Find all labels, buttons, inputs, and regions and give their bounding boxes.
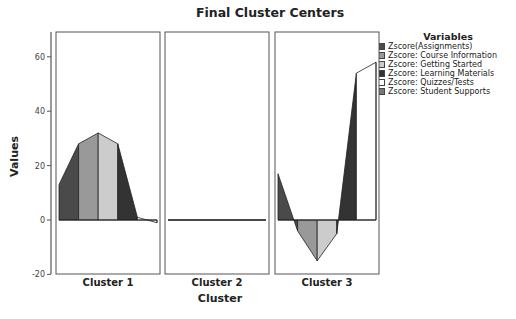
cluster-panel xyxy=(56,32,160,274)
cluster-label: Cluster 3 xyxy=(302,277,353,288)
chart-root: Final Cluster Centers Values Cluster Var… xyxy=(0,0,516,319)
svg-text:60: 60 xyxy=(35,53,45,62)
cluster-panel xyxy=(275,32,379,274)
svg-text:40: 40 xyxy=(35,107,45,116)
svg-text:-20: -20 xyxy=(32,270,45,279)
svg-text:20: 20 xyxy=(35,162,45,171)
cluster-label: Cluster 2 xyxy=(192,277,243,288)
cluster-panel xyxy=(165,32,269,274)
svg-text:0: 0 xyxy=(40,216,45,225)
plot-area: -200204060Cluster 1Cluster 2Cluster 3 xyxy=(0,0,516,319)
cluster-label: Cluster 1 xyxy=(83,277,134,288)
